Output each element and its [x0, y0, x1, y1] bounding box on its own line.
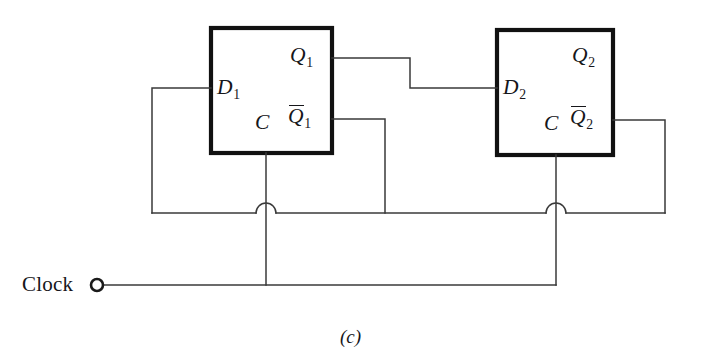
wire-d1-input-feedback [152, 88, 211, 213]
flipflop-2-c-label: C [544, 113, 558, 135]
flipflop-1-qbar-label: Q1 [288, 106, 310, 128]
flipflop-1-d-label: D1 [217, 77, 239, 99]
circuit-schematic-canvas [0, 0, 704, 363]
flipflop-1-q-label: Q1 [290, 45, 312, 67]
circuit-figure: D1 Q1 Q1 C D2 Q2 Q2 C Clock (c) [0, 0, 704, 363]
wire-q1-to-d2 [332, 58, 497, 88]
wire-q1bar-to-bus [332, 119, 385, 213]
flipflop-2-qbar-label: Q2 [570, 107, 592, 129]
flipflop-2-d-label: D2 [503, 77, 525, 99]
flipflop-2-q-label: Q2 [572, 45, 594, 67]
figure-caption: (c) [340, 327, 361, 346]
flipflop-1-c-label: C [255, 112, 269, 134]
clock-label: Clock [22, 274, 73, 295]
clock-input-terminal-icon[interactable] [91, 279, 103, 291]
wire-q2bar-return [613, 120, 665, 213]
